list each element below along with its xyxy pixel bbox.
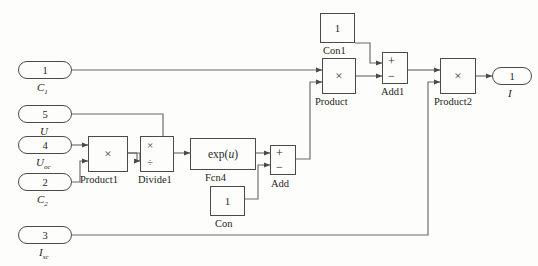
block-product2-label: Product2 bbox=[434, 96, 472, 107]
inport-c2-label: C2 bbox=[37, 193, 48, 208]
block-product1[interactable]: × bbox=[88, 136, 128, 172]
block-con1-label: Con1 bbox=[323, 45, 346, 56]
block-con-label: Con bbox=[215, 218, 233, 229]
block-fcn4[interactable]: exp(u) bbox=[190, 138, 256, 170]
inport-isc-label: Isc bbox=[39, 246, 49, 261]
fcn4-expression: exp(u) bbox=[208, 148, 238, 160]
block-product-label: Product bbox=[315, 96, 348, 107]
block-add1-label: Add1 bbox=[381, 86, 404, 97]
block-diagram-canvas: Product top input --> down --> Divide1 t… bbox=[0, 0, 538, 266]
plus-sign-icon: + bbox=[388, 55, 395, 67]
block-con1[interactable]: 1 bbox=[320, 13, 355, 43]
block-product[interactable]: × bbox=[322, 58, 356, 94]
inport-uoc-number: 4 bbox=[42, 140, 47, 151]
divide-icon: ÷ bbox=[147, 157, 153, 168]
block-add[interactable]: + − bbox=[270, 145, 296, 175]
outport-i-number: 1 bbox=[509, 71, 514, 82]
block-product2[interactable]: × bbox=[440, 58, 476, 94]
block-fcn4-label: Fcn4 bbox=[205, 172, 226, 183]
minus-sign-icon: − bbox=[388, 70, 395, 82]
inport-c2[interactable]: 2 bbox=[18, 173, 72, 191]
inport-c1-number: 1 bbox=[42, 65, 47, 76]
inport-c1[interactable]: 1 bbox=[18, 61, 72, 79]
block-divide1[interactable]: × ÷ bbox=[140, 136, 174, 172]
con1-value: 1 bbox=[335, 22, 341, 34]
multiply-icon: × bbox=[147, 140, 153, 151]
inport-c2-number: 2 bbox=[42, 177, 47, 188]
inport-c1-label: C1 bbox=[37, 81, 48, 96]
block-product1-label: Product1 bbox=[80, 174, 118, 185]
inport-uoc-label: Uoc bbox=[36, 156, 51, 171]
block-con[interactable]: 1 bbox=[210, 186, 245, 216]
multiply-icon: × bbox=[454, 68, 461, 84]
inport-u[interactable]: 5 bbox=[18, 105, 72, 123]
outport-i-label: I bbox=[508, 87, 512, 102]
multiply-icon: × bbox=[104, 146, 111, 162]
inport-isc[interactable]: 3 bbox=[18, 226, 72, 244]
inport-isc-number: 3 bbox=[42, 230, 47, 241]
inport-u-number: 5 bbox=[42, 109, 47, 120]
outport-i[interactable]: 1 bbox=[492, 67, 532, 85]
signal-wires: Product top input --> down --> Divide1 t… bbox=[0, 0, 538, 266]
con-value: 1 bbox=[225, 195, 231, 207]
plus-sign-icon: + bbox=[276, 147, 283, 159]
block-add-label: Add bbox=[271, 178, 289, 189]
block-add1[interactable]: + − bbox=[382, 52, 408, 84]
block-divide1-label: Divide1 bbox=[138, 174, 172, 185]
inport-u-label: U bbox=[40, 125, 48, 140]
multiply-icon: × bbox=[335, 68, 342, 84]
minus-sign-icon: − bbox=[276, 161, 283, 173]
